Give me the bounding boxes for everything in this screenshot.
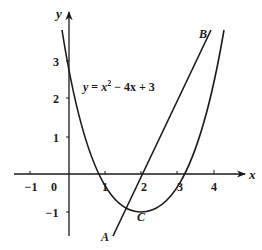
- x-axis-label: x: [248, 167, 256, 182]
- x-tick-label-0: 0: [51, 180, 57, 194]
- x-tick-label-neg1: −1: [25, 180, 38, 194]
- equation-eq: =: [88, 80, 101, 94]
- point-b-label: B: [198, 27, 207, 41]
- parabola-line-chart: −1 0 1 2 3 4 3 2 1 −1 y x A B C y = x2 −…: [0, 0, 262, 250]
- equation-x: x: [100, 80, 107, 94]
- y-tick-label-neg1: −1: [46, 206, 59, 220]
- y-axis-label: y: [54, 6, 62, 21]
- point-c-label: C: [137, 210, 146, 224]
- y-tick-label-1: 1: [53, 131, 59, 145]
- x-tick-label-4: 4: [211, 180, 217, 194]
- y-tick-label-2: 2: [53, 92, 59, 106]
- x-tick-label-2: 2: [141, 180, 147, 194]
- y-tick-label-3: 3: [53, 55, 59, 69]
- point-a-label: A: [100, 230, 109, 244]
- equation-rest: − 4x + 3: [111, 80, 155, 94]
- equation-label: y = x2 − 4x + 3: [81, 79, 155, 94]
